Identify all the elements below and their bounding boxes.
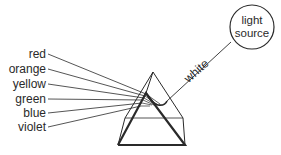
spectrum-label-green: green [15, 92, 46, 106]
light-source-label-line1: light [241, 14, 263, 26]
prism-diagram: light source white red orange y [0, 0, 281, 155]
spectrum-label-yellow: yellow [13, 77, 47, 91]
spectrum-label-red: red [29, 47, 46, 61]
light-source: light source [230, 5, 274, 49]
spectrum-label-violet: violet [18, 120, 47, 134]
spectrum-label-blue: blue [23, 106, 46, 120]
white-beam-label: white [180, 56, 211, 86]
light-source-label-line2: source [235, 27, 270, 39]
spectrum-label-orange: orange [9, 62, 47, 76]
prism [118, 72, 185, 145]
spectrum-rays [48, 54, 146, 127]
